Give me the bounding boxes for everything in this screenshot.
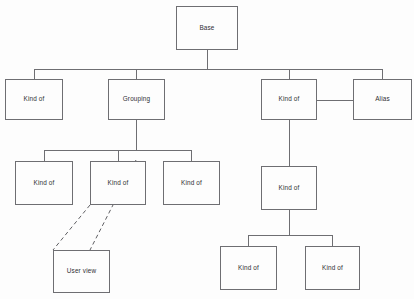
node-kind-of-3[interactable]: Kind of — [15, 161, 73, 205]
node-kind-of-6-label: Kind of — [279, 184, 300, 190]
node-kind-of-4-label: Kind of — [108, 179, 129, 185]
node-kind-of-1-label: Kind of — [24, 96, 45, 102]
node-base[interactable]: Base — [176, 6, 238, 50]
node-alias-label: Alias — [375, 96, 390, 102]
node-kind-of-5-label: Kind of — [181, 179, 202, 185]
node-kind-of-6[interactable]: Kind of — [261, 166, 317, 210]
node-kind-of-7-label: Kind of — [238, 264, 259, 270]
node-kind-of-1[interactable]: Kind of — [5, 79, 63, 120]
node-user-view-label: User view — [67, 268, 96, 274]
node-kind-of-7[interactable]: Kind of — [220, 246, 277, 290]
node-grouping-label: Grouping — [123, 96, 151, 102]
edge-kind4-to-userview-left — [53, 205, 90, 250]
node-kind-of-8-label: Kind of — [322, 264, 343, 270]
node-kind-of-5[interactable]: Kind of — [163, 161, 220, 205]
node-kind-of-2-label: Kind of — [279, 96, 300, 102]
node-base-label: Base — [199, 24, 214, 30]
node-user-view[interactable]: User view — [53, 250, 110, 293]
diagram-canvas: Base Kind of Grouping Kind of Alias Kind… — [0, 0, 414, 299]
node-kind-of-2[interactable]: Kind of — [261, 79, 317, 120]
node-kind-of-3-label: Kind of — [34, 179, 55, 185]
node-kind-of-4[interactable]: Kind of — [90, 161, 146, 205]
node-alias[interactable]: Alias — [353, 79, 412, 120]
node-grouping[interactable]: Grouping — [108, 79, 165, 120]
node-kind-of-8[interactable]: Kind of — [305, 246, 360, 290]
